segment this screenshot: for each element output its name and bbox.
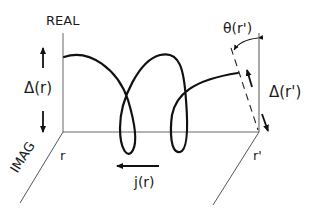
delta-r-prime-down-arrow [262, 114, 268, 131]
delta-r-prime-label: Δ(r') [269, 85, 301, 100]
theta-r-prime-label: θ(r') [223, 21, 252, 35]
r-prime-label: r' [253, 149, 262, 162]
real-axis-label: REAL [46, 14, 79, 27]
imag-axis-right [213, 132, 259, 205]
current-label: j(r) [134, 175, 155, 189]
r-label: r [60, 149, 65, 162]
delta-r-prime-up-arrow [247, 70, 252, 87]
order-parameter-helix [64, 54, 238, 154]
theta-arc [234, 38, 258, 50]
helix-diagram [0, 0, 323, 216]
tilted-phase-line [231, 48, 258, 130]
delta-r-label: Δ(r) [24, 81, 52, 96]
